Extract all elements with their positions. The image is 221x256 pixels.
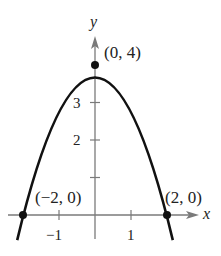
tick-label-y-2: 2 — [73, 132, 81, 148]
tick-label-x-1: 1 — [127, 227, 135, 243]
x-axis-label: x — [202, 205, 210, 222]
y-axis-label: y — [88, 13, 98, 31]
tick-label-x-neg1: −1 — [46, 227, 62, 243]
right-intercept-point — [163, 211, 171, 219]
right-intercept-label: (2, 0) — [165, 188, 202, 207]
parabola-graph: y x 3 2 −1 1 (0, 4) (−2, 0) (2, 0) — [0, 0, 221, 256]
left-intercept-point — [19, 211, 27, 219]
vertex-label: (0, 4) — [104, 43, 141, 62]
vertex-point — [91, 61, 99, 69]
left-intercept-label: (−2, 0) — [35, 188, 81, 207]
tick-label-y-3: 3 — [73, 95, 81, 111]
